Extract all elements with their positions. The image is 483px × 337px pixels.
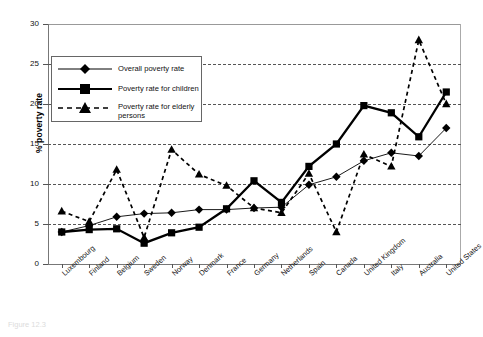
legend-marker-elderly (56, 102, 114, 114)
chart-legend: Overall poverty rate Poverty rate for ch… (51, 56, 202, 122)
legend-label-children: Poverty rate for children (118, 84, 200, 93)
legend-label-overall: Overall poverty rate (118, 64, 200, 73)
legend-label-elderly-cont: persons (118, 111, 200, 120)
figure-caption: Figure 12.3 (8, 320, 46, 329)
legend-marker-overall (56, 63, 114, 75)
legend-label-elderly: Poverty rate for elderly (118, 102, 200, 111)
legend-marker-children (56, 83, 114, 95)
